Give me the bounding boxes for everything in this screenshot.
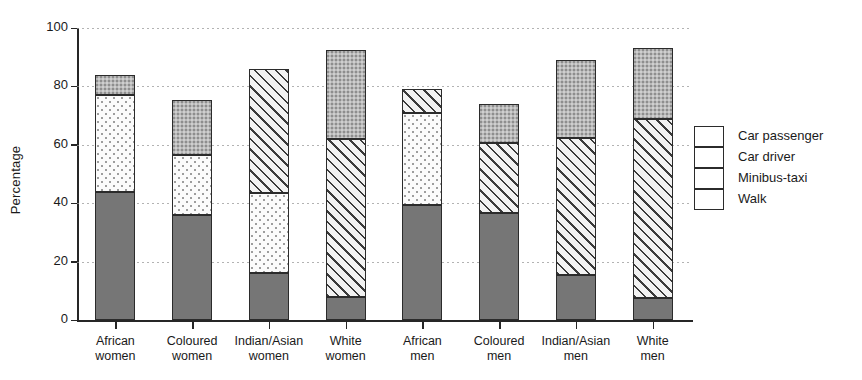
x-axis-label: Indian/Asianmen xyxy=(538,334,615,363)
legend-label: Car passenger xyxy=(738,128,823,143)
y-axis-tick-label: 80 xyxy=(54,77,68,92)
x-axis-tick-mark xyxy=(576,321,578,329)
bar-segment-driver[interactable] xyxy=(556,138,596,275)
bar-segment-minibus[interactable] xyxy=(402,113,442,205)
bar[interactable] xyxy=(326,50,366,320)
x-axis-tick-mark xyxy=(422,321,424,329)
x-axis-label: Africanwomen xyxy=(77,334,154,363)
bar-segment-passenger[interactable] xyxy=(95,75,135,95)
y-axis-tick-label: 60 xyxy=(54,136,68,151)
bar-segment-minibus[interactable] xyxy=(249,193,289,273)
legend-swatch-driver xyxy=(694,147,724,168)
y-axis-tick-label: 40 xyxy=(54,194,68,209)
bar-segment-walk[interactable] xyxy=(479,213,519,320)
x-axis-label: Africanmen xyxy=(384,334,461,363)
bar-segment-minibus[interactable] xyxy=(95,95,135,191)
bar[interactable] xyxy=(95,75,135,320)
bar-segment-driver[interactable] xyxy=(633,119,673,299)
bar-segment-walk[interactable] xyxy=(95,192,135,320)
y-axis-title-text: Percentage xyxy=(8,100,23,260)
legend-swatch-passenger xyxy=(694,126,724,147)
bar-segment-passenger[interactable] xyxy=(172,100,212,155)
bar[interactable] xyxy=(556,60,596,320)
x-axis-tick-mark xyxy=(269,321,271,329)
bar-segment-walk[interactable] xyxy=(402,205,442,320)
x-axis-label: Colouredmen xyxy=(461,334,538,363)
bar-segment-driver[interactable] xyxy=(402,89,442,112)
bar-segment-walk[interactable] xyxy=(249,273,289,320)
plot-area: 020406080100 xyxy=(77,28,691,320)
bar-segment-walk[interactable] xyxy=(326,297,366,320)
x-axis-tick-mark xyxy=(192,321,194,329)
bar[interactable] xyxy=(249,69,289,320)
x-axis-tick-mark xyxy=(653,321,655,329)
x-axis-label: Whitemen xyxy=(614,334,691,363)
x-axis-tick-mark xyxy=(499,321,501,329)
bar-segment-driver[interactable] xyxy=(249,69,289,193)
x-axis-label: Indian/Asianwomen xyxy=(231,334,308,363)
bar-segment-walk[interactable] xyxy=(556,275,596,320)
bar[interactable] xyxy=(172,100,212,320)
bars-layer xyxy=(77,28,691,320)
x-axis-tick-mark xyxy=(115,321,117,329)
bar[interactable] xyxy=(479,104,519,320)
x-axis-label: Colouredwomen xyxy=(154,334,231,363)
legend-label: Minibus-taxi xyxy=(738,170,807,185)
bar-segment-minibus[interactable] xyxy=(172,155,212,215)
y-axis-title: Percentage xyxy=(8,0,23,100)
bar-segment-walk[interactable] xyxy=(633,298,673,320)
x-axis-label: Whitewomen xyxy=(307,334,384,363)
legend-swatch-walk xyxy=(694,189,724,210)
bar-segment-passenger[interactable] xyxy=(326,50,366,139)
y-axis-tick-label: 100 xyxy=(46,19,68,34)
legend-label: Walk xyxy=(738,191,766,206)
stacked-bar-chart: Percentage 020406080100 AfricanwomenColo… xyxy=(0,0,862,380)
bar[interactable] xyxy=(402,89,442,320)
legend-label: Car driver xyxy=(738,149,795,164)
bar-segment-passenger[interactable] xyxy=(556,60,596,137)
bar-segment-walk[interactable] xyxy=(172,215,212,320)
bar-segment-passenger[interactable] xyxy=(633,48,673,118)
y-axis-tick-label: 20 xyxy=(54,253,68,268)
bar[interactable] xyxy=(633,48,673,320)
bar-segment-driver[interactable] xyxy=(326,139,366,297)
bar-segment-passenger[interactable] xyxy=(479,104,519,143)
bar-segment-driver[interactable] xyxy=(479,143,519,213)
legend-swatch-minibus xyxy=(694,168,724,189)
y-axis-tick-label: 0 xyxy=(61,311,68,326)
x-axis-line xyxy=(77,320,693,322)
x-axis-tick-mark xyxy=(346,321,348,329)
